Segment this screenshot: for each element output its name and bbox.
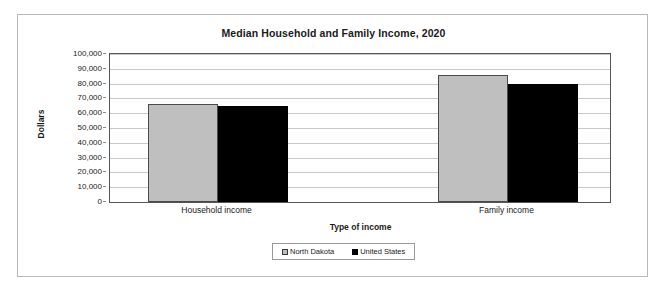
legend-swatch-icon-north-dakota (282, 249, 288, 255)
y-axis-label: Dollars (36, 94, 46, 154)
y-axis-tick-90000: 90,000 (78, 63, 102, 72)
y-axis-tick-mark (103, 53, 106, 54)
y-axis-tick-60000: 60,000 (78, 108, 102, 117)
gridline (110, 54, 610, 55)
y-axis-tick-mark (103, 201, 106, 202)
x-axis-category-label: Family income (479, 205, 534, 215)
y-axis-tick-50000: 50,000 (78, 123, 102, 132)
chart-legend: North Dakota United States (272, 243, 415, 260)
y-axis-tick-100000: 100,000 (73, 49, 102, 58)
x-axis-label: Type of income (109, 222, 612, 232)
y-axis-tick-40000: 40,000 (78, 137, 102, 146)
y-axis-tick-mark (103, 112, 106, 113)
y-axis-tick-80000: 80,000 (78, 78, 102, 87)
bar-united-states-household-income (218, 106, 288, 202)
y-axis-tick-mark (103, 83, 106, 84)
chart-container: Median Household and Family Income, 2020… (17, 14, 648, 277)
y-axis-tick-20000: 20,000 (78, 167, 102, 176)
y-axis-tick-10000: 10,000 (78, 182, 102, 191)
x-axis-category-label: Household income (181, 205, 251, 215)
y-axis-tick-mark (103, 142, 106, 143)
y-axis-tick-mark (103, 171, 106, 172)
chart-title: Median Household and Family Income, 2020 (18, 27, 649, 39)
y-axis-tick-0: 0 (98, 197, 102, 206)
y-axis-tick-70000: 70,000 (78, 93, 102, 102)
legend-swatch-icon-united-states (352, 249, 358, 255)
bar-north-dakota-household-income (148, 104, 218, 202)
y-axis-tick-30000: 30,000 (78, 152, 102, 161)
y-axis-tick-mark (103, 127, 106, 128)
y-axis-tick-labels: 100,00090,00080,00070,00060,00050,00040,… (54, 46, 106, 201)
bar-united-states-family-income (508, 84, 578, 202)
legend-entry-north-dakota: North Dakota (282, 247, 334, 256)
legend-entry-united-states: United States (352, 247, 405, 256)
y-axis-tick-mark (103, 97, 106, 98)
y-axis-tick-mark (103, 68, 106, 69)
x-axis-category-labels: Household incomeFamily income (109, 205, 612, 219)
y-axis-tick-mark (103, 186, 106, 187)
legend-label-united-states: United States (360, 247, 405, 256)
gridline (110, 69, 610, 70)
legend-label-north-dakota: North Dakota (290, 247, 334, 256)
bar-north-dakota-family-income (438, 75, 508, 202)
plot-area (109, 53, 611, 203)
y-axis-tick-mark (103, 157, 106, 158)
